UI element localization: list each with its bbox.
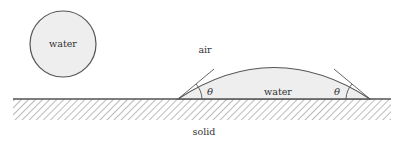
theta-label-right: θ xyxy=(334,86,340,97)
free-water-droplet: water xyxy=(30,11,96,77)
droplet-label: water xyxy=(264,86,292,97)
air-label: air xyxy=(198,44,212,55)
contact-angle-diagram: water θ θ water air solid xyxy=(0,0,399,146)
hatch-region xyxy=(13,99,391,120)
solid-label: solid xyxy=(193,126,216,137)
solid-substrate xyxy=(13,99,391,120)
free-drop-label: water xyxy=(49,38,77,49)
theta-label-left: θ xyxy=(207,86,213,97)
